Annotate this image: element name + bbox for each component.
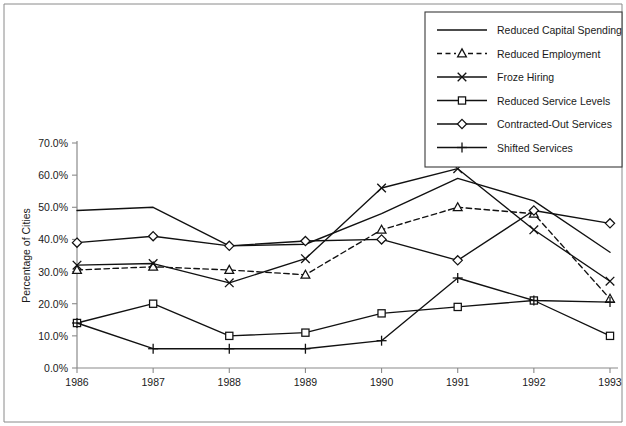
x-tick-label: 1989	[294, 376, 318, 388]
y-tick-label: 40.0%	[38, 233, 68, 245]
data-point	[302, 329, 309, 336]
legend-item-reduced-service-levels[interactable]: Reduced Service Levels	[437, 95, 610, 107]
chart-container: 0.0%10.0%20.0%30.0%40.0%50.0%60.0%70.0% …	[0, 0, 626, 426]
y-axis-title: Percentage of Cities	[20, 208, 32, 303]
legend-label: Shifted Services	[497, 142, 573, 154]
y-tick-label: 10.0%	[38, 330, 68, 342]
data-point	[606, 332, 613, 339]
legend-label: Reduced Employment	[497, 48, 600, 60]
y-tick-label: 20.0%	[38, 298, 68, 310]
y-tick-label: 30.0%	[38, 266, 68, 278]
line-chart: 0.0%10.0%20.0%30.0%40.0%50.0%60.0%70.0% …	[0, 0, 626, 426]
data-point	[150, 300, 157, 307]
x-tick-label: 1986	[65, 376, 89, 388]
legend-label: Froze Hiring	[497, 71, 554, 83]
x-tick-label: 1992	[522, 376, 546, 388]
x-tick-label: 1987	[141, 376, 165, 388]
legend-marker	[458, 97, 465, 104]
x-tick-label: 1990	[370, 376, 394, 388]
legend-label: Contracted-Out Services	[497, 118, 612, 130]
x-tick-label: 1988	[218, 376, 242, 388]
y-tick-label: 50.0%	[38, 201, 68, 213]
x-tick-label: 1993	[598, 376, 622, 388]
legend-label: Reduced Service Levels	[497, 95, 610, 107]
x-tick-label: 1991	[446, 376, 470, 388]
y-tick-label: 70.0%	[38, 137, 68, 149]
legend-label: Reduced Capital Spending	[497, 24, 622, 36]
data-point	[378, 310, 385, 317]
legend-item-contracted-out-services[interactable]: Contracted-Out Services	[437, 118, 612, 130]
legend: Reduced Capital SpendingReduced Employme…	[425, 12, 622, 167]
y-tick-label: 60.0%	[38, 169, 68, 181]
y-tick-label: 0.0%	[44, 362, 68, 374]
data-point	[454, 303, 461, 310]
data-point	[226, 332, 233, 339]
